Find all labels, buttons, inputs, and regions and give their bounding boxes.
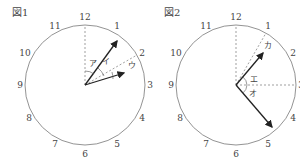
angle-label-b: イ <box>102 57 110 66</box>
clock-1: ア イ ウ 12 1 2 3 4 5 6 7 8 9 10 11 <box>17 12 153 159</box>
svg-text:1: 1 <box>265 21 271 31</box>
angle-label-c: ウ <box>128 61 136 70</box>
clock-2: エ オ カ 12 1 2 3 4 5 6 7 8 9 10 11 <box>168 12 300 159</box>
svg-text:4: 4 <box>139 113 145 123</box>
svg-text:5: 5 <box>265 139 271 149</box>
svg-text:12: 12 <box>230 12 241 22</box>
angle-label-e: オ <box>249 89 257 98</box>
svg-text:11: 11 <box>200 21 211 31</box>
svg-text:6: 6 <box>233 149 239 159</box>
clock-2-numbers: 12 1 2 3 4 5 6 7 8 9 10 11 <box>168 12 300 159</box>
svg-text:3: 3 <box>147 80 153 90</box>
clock-diagrams: ア イ ウ 12 1 2 3 4 5 6 7 8 9 10 11 エ オ カ <box>0 0 300 168</box>
svg-text:4: 4 <box>290 113 296 123</box>
svg-text:3: 3 <box>298 80 300 90</box>
svg-text:10: 10 <box>170 48 182 58</box>
angle-label-d: エ <box>250 75 258 84</box>
svg-text:7: 7 <box>203 139 209 149</box>
svg-text:2: 2 <box>139 48 145 58</box>
svg-text:10: 10 <box>19 48 31 58</box>
short-hand-arrow <box>85 73 124 85</box>
svg-text:6: 6 <box>82 149 88 159</box>
clock-1-numbers: 12 1 2 3 4 5 6 7 8 9 10 11 <box>17 12 153 159</box>
angle-label-a: ア <box>89 59 97 68</box>
svg-text:5: 5 <box>114 139 120 149</box>
svg-text:12: 12 <box>79 12 90 22</box>
svg-text:1: 1 <box>114 21 120 31</box>
angle-label-f: カ <box>264 41 272 50</box>
svg-text:8: 8 <box>26 113 32 123</box>
svg-text:9: 9 <box>17 80 23 90</box>
svg-text:2: 2 <box>290 48 296 58</box>
svg-text:11: 11 <box>49 21 60 31</box>
svg-text:9: 9 <box>168 80 174 90</box>
svg-text:8: 8 <box>177 113 183 123</box>
svg-text:7: 7 <box>52 139 58 149</box>
